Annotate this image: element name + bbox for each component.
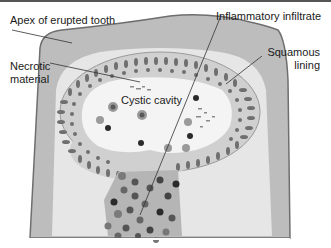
label-necrotic-line2: material [10,73,49,85]
label-cystic-cavity: Cystic cavity [121,94,182,106]
label-squamous-line2: lining [262,59,320,71]
label-squamous-line1: Squamous [262,46,320,58]
label-inflammatory-infiltrate: Inflammatory infiltrate [216,10,321,22]
cystic-cavity [82,77,232,153]
diagram-illustration [0,0,331,248]
bottom-edge [28,238,290,240]
cyst-diagram: Apex of erupted tooth Inflammatory infil… [0,0,331,248]
label-apex: Apex of erupted tooth [10,14,115,26]
top-rule [0,0,331,2]
label-necrotic-line1: Necrotic [10,60,50,72]
